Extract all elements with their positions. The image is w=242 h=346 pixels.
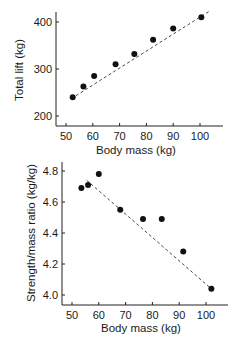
y-tick-label: 4.0 <box>43 289 58 301</box>
data-point <box>159 216 165 222</box>
x-axis-label: Body mass (kg) <box>101 322 181 334</box>
y-tick-label: 4.2 <box>43 258 58 270</box>
x-tick-label: 60 <box>93 309 105 321</box>
data-point <box>180 249 186 255</box>
x-tick-label: 90 <box>173 309 185 321</box>
data-point <box>140 216 146 222</box>
y-tick-label: 4.4 <box>43 227 58 239</box>
data-point <box>117 207 123 213</box>
y-tick-label: 4.8 <box>43 165 58 177</box>
trend-line <box>87 180 212 288</box>
y-axis-label: Strength/mass ratio (kg/kg) <box>25 164 37 302</box>
x-tick-label: 100 <box>197 309 215 321</box>
data-point <box>78 185 84 191</box>
x-tick-label: 70 <box>119 309 131 321</box>
data-point <box>208 286 214 292</box>
x-tick-label: 50 <box>66 309 78 321</box>
data-point <box>96 171 102 177</box>
data-point <box>85 182 91 188</box>
x-tick-label: 80 <box>146 309 158 321</box>
y-tick-label: 4.6 <box>43 196 58 208</box>
chart-strength-mass-ratio: 50607080901004.04.24.44.64.8 Body mass (… <box>0 0 242 346</box>
